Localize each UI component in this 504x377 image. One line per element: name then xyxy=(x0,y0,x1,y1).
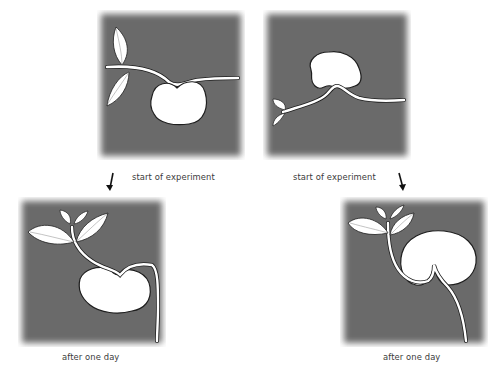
seed xyxy=(151,82,207,125)
caption-day1-left: after one day xyxy=(62,352,119,362)
panel-day1-right xyxy=(340,197,488,347)
panel-start-left xyxy=(97,10,245,160)
panel-day1-left xyxy=(18,197,166,347)
caption-day1-right: after one day xyxy=(383,352,440,362)
panel-start-right xyxy=(263,10,411,160)
arrow-down-right-icon xyxy=(395,172,409,192)
seedling-illustration xyxy=(263,10,411,160)
seedling-illustration xyxy=(18,197,166,347)
caption-start-left: start of experiment xyxy=(132,172,215,182)
caption-start-right: start of experiment xyxy=(293,172,376,182)
seedling-illustration xyxy=(97,10,245,160)
seedling-illustration xyxy=(340,197,488,347)
arrow-down-left-icon xyxy=(104,172,118,192)
